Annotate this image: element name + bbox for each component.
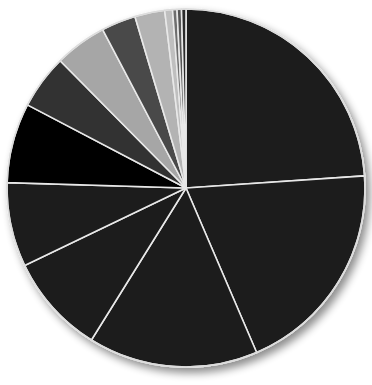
pie-slices <box>7 9 365 367</box>
pie-chart <box>0 0 372 385</box>
pie-slice-1 <box>186 9 365 188</box>
